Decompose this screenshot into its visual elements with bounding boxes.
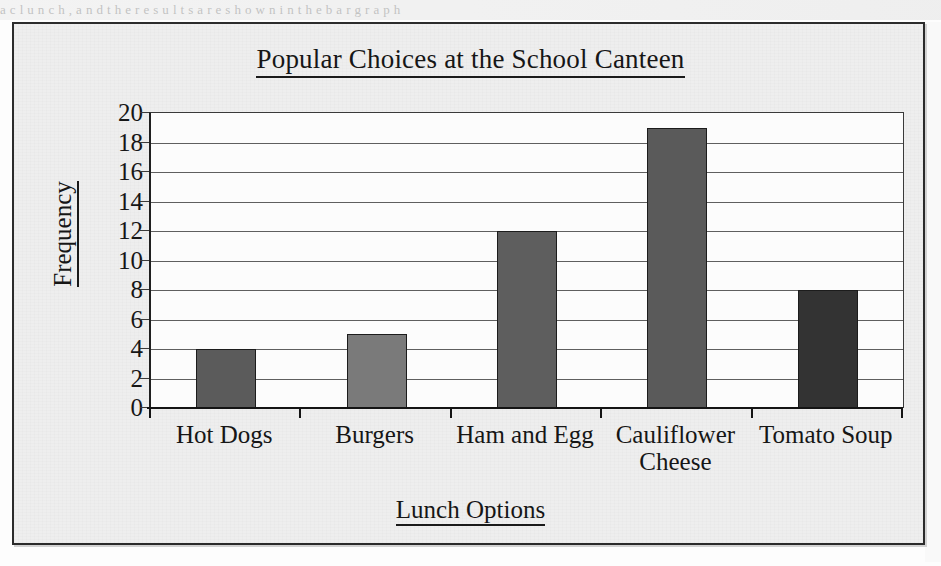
x-axis-category-label: Ham and Egg <box>444 422 606 449</box>
x-axis-category-label: Hot Dogs <box>143 422 305 449</box>
y-axis-tick-mark <box>140 348 149 349</box>
y-axis-tick-mark <box>140 171 149 172</box>
y-axis-tick-mark <box>140 289 149 290</box>
x-axis-tick-mark <box>901 407 903 418</box>
y-axis-tick-label: 18 <box>85 130 143 155</box>
x-axis-title-text: Lunch Options <box>396 496 545 526</box>
x-axis-category-label: Cauliflower Cheese <box>594 422 756 476</box>
y-axis-tick-label: 10 <box>85 248 143 273</box>
y-axis-tick-label: 12 <box>85 218 143 243</box>
y-axis-title: Frequency <box>49 149 77 319</box>
chart-title-text: Popular Choices at the School Canteen <box>256 44 684 78</box>
gridline <box>151 172 903 173</box>
bar-tomato-soup <box>798 290 858 408</box>
chart-title: Popular Choices at the School Canteen <box>14 44 927 75</box>
y-axis-tick-label: 14 <box>85 189 143 214</box>
y-axis-tick-mark <box>140 260 149 261</box>
bar-burgers <box>347 334 407 408</box>
x-axis-category-label: Tomato Soup <box>745 422 907 449</box>
y-axis-title-text: Frequency <box>49 181 79 287</box>
y-axis-tick-label: 0 <box>85 395 143 420</box>
x-axis-category-label: Burgers <box>293 422 455 449</box>
y-axis-tick-mark <box>140 201 149 202</box>
y-axis-tick-mark <box>140 112 149 113</box>
y-axis-tick-label: 4 <box>85 336 143 361</box>
scan-artifact-right-margin <box>925 22 941 562</box>
y-axis-tick-label: 6 <box>85 307 143 332</box>
bar-chart-figure: Popular Choices at the School Canteen Fr… <box>12 22 925 545</box>
y-axis-tick-mark <box>140 319 149 320</box>
gridline <box>151 143 903 144</box>
plot-area <box>149 112 904 408</box>
y-axis-tick-mark <box>140 378 149 379</box>
x-axis-tick-mark <box>751 407 753 418</box>
x-axis-tick-mark <box>600 407 602 418</box>
y-axis-tick-mark <box>140 230 149 231</box>
y-axis-tick-label: 8 <box>85 277 143 302</box>
y-axis-tick-mark <box>140 142 149 143</box>
x-axis-tick-mark <box>299 407 301 418</box>
scan-artifact-top-text: a c l u n c h , a n d t h e r e s u l t … <box>0 0 941 20</box>
y-axis-tick-label: 2 <box>85 366 143 391</box>
x-axis-tick-mark <box>450 407 452 418</box>
y-axis-tick-label: 20 <box>85 100 143 125</box>
bar-ham-and-egg <box>497 231 557 408</box>
bar-hot-dogs <box>196 349 256 408</box>
y-axis-tick-label: 16 <box>85 159 143 184</box>
x-axis-title: Lunch Options <box>14 496 927 524</box>
gridline <box>151 202 903 203</box>
x-axis-line <box>147 407 903 409</box>
x-axis-tick-mark <box>149 407 151 418</box>
bar-cauliflower-cheese <box>647 128 707 408</box>
